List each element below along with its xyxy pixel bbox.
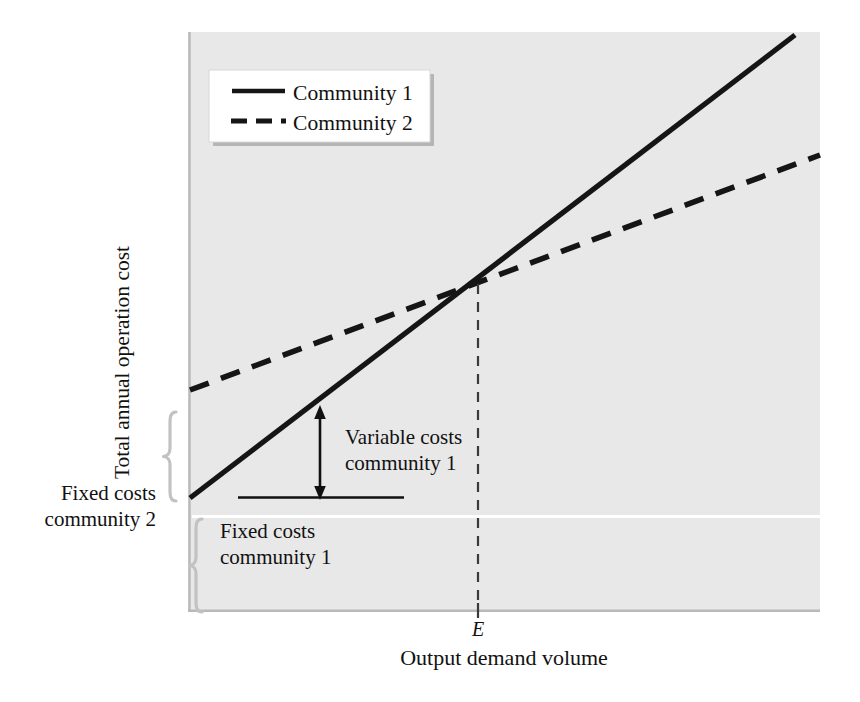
chart-figure: Community 1 Community 2 Variable costs c… bbox=[0, 0, 860, 702]
legend-label-community-1: Community 1 bbox=[293, 80, 413, 106]
brace-fixed-costs-community-2 bbox=[164, 412, 177, 501]
legend-label-community-2: Community 2 bbox=[293, 110, 413, 136]
x-axis-title: Output demand volume bbox=[188, 645, 820, 671]
annotation-variable-costs: Variable costs community 1 bbox=[345, 425, 462, 476]
x-axis-tick-label-e: E bbox=[448, 618, 508, 641]
annotation-fixed-costs-community-1: Fixed costs community 1 bbox=[220, 519, 331, 570]
y-axis-title: Total annual operation cost bbox=[110, 213, 135, 513]
